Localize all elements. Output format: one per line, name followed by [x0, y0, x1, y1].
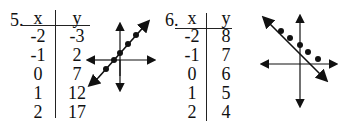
y-cell: 7 [211, 46, 241, 65]
x-header: x [177, 10, 207, 27]
y-header: y [211, 10, 241, 27]
y-cell: 4 [211, 103, 241, 122]
x-cell: 0 [22, 65, 54, 84]
table-column-rule [55, 10, 56, 118]
x-cell: 1 [177, 84, 207, 103]
x-column: x -2 -1 0 1 2 [177, 10, 207, 122]
y-cell: 5 [211, 84, 241, 103]
y-column: y 8 7 6 5 4 [211, 10, 241, 122]
line-graph-negative [260, 12, 338, 108]
x-cell: -2 [177, 27, 207, 46]
x-column: x -2 -1 0 1 2 [22, 10, 54, 122]
x-cell: 2 [177, 103, 207, 122]
table-header-rule [175, 28, 232, 29]
table-header-rule [22, 25, 90, 26]
x-cell: 0 [177, 65, 207, 84]
problem-6: 6. x -2 -1 0 1 2 y 8 7 6 5 4 [165, 0, 353, 128]
y-cell: 17 [58, 103, 96, 122]
line-graph-positive [86, 14, 158, 92]
table-column-rule [206, 13, 207, 121]
x-cell: -2 [22, 27, 54, 46]
y-cell: 6 [211, 65, 241, 84]
x-cell: 2 [22, 103, 54, 122]
y-cell: 8 [211, 27, 241, 46]
x-cell: 1 [22, 84, 54, 103]
x-cell: -1 [22, 46, 54, 65]
problem-5: 5. x -2 -1 0 1 2 y -3 2 7 12 17 [0, 0, 175, 128]
x-cell: -1 [177, 46, 207, 65]
